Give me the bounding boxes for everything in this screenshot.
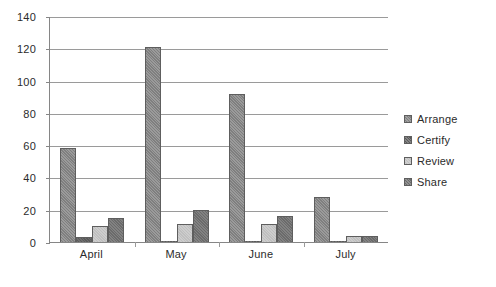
- bar-may-share[interactable]: [193, 210, 209, 242]
- legend-swatch-icon: [404, 178, 412, 186]
- y-tick-label: 20: [23, 205, 36, 217]
- bar-group-june: [219, 17, 304, 242]
- bar-group-bars: [304, 17, 389, 242]
- legend-label: Review: [417, 155, 454, 167]
- chart-legend: ArrangeCertifyReviewShare: [404, 108, 494, 192]
- x-axis-label-april: April: [80, 248, 103, 260]
- y-tick-label: 140: [17, 11, 36, 23]
- y-tick-label: 100: [17, 76, 36, 88]
- bar-group-april: [50, 17, 135, 242]
- bar-july-review[interactable]: [346, 236, 362, 242]
- bar-chart: 020406080100120140 AprilMayJuneJuly Arra…: [0, 0, 496, 287]
- bar-july-arrange[interactable]: [314, 197, 330, 242]
- x-tick-mark: [304, 242, 305, 247]
- x-axis-label-june: June: [249, 248, 274, 260]
- legend-label: Certify: [417, 134, 450, 146]
- y-tick-label: 0: [30, 237, 36, 249]
- bar-june-review[interactable]: [261, 224, 277, 242]
- y-tick-label: 60: [23, 140, 36, 152]
- y-tick-label: 40: [23, 172, 36, 184]
- bar-june-arrange[interactable]: [229, 94, 245, 243]
- bar-april-review[interactable]: [92, 226, 108, 242]
- x-axis-label-may: May: [165, 248, 186, 260]
- bar-june-share[interactable]: [277, 216, 293, 242]
- legend-item-arrange[interactable]: Arrange: [404, 108, 494, 129]
- bar-may-arrange[interactable]: [145, 47, 161, 242]
- bar-may-certify[interactable]: [161, 241, 177, 242]
- legend-item-review[interactable]: Review: [404, 150, 494, 171]
- bar-july-share[interactable]: [362, 236, 378, 242]
- bar-group-july: [304, 17, 389, 242]
- bar-april-arrange[interactable]: [60, 148, 76, 242]
- y-tick-label: 120: [17, 43, 36, 55]
- legend-item-certify[interactable]: Certify: [404, 129, 494, 150]
- legend-swatch-icon: [404, 136, 412, 144]
- bar-april-share[interactable]: [108, 218, 124, 242]
- legend-label: Share: [417, 176, 447, 188]
- x-tick-mark: [135, 242, 136, 247]
- legend-swatch-icon: [404, 157, 412, 165]
- x-tick-mark: [219, 242, 220, 247]
- plot-area: [49, 17, 388, 243]
- x-axis-category-labels: AprilMayJuneJuly: [49, 248, 388, 270]
- legend-label: Arrange: [417, 113, 458, 125]
- legend-item-share[interactable]: Share: [404, 171, 494, 192]
- y-tick-label: 80: [23, 108, 36, 120]
- bar-group-bars: [135, 17, 220, 242]
- bar-june-certify[interactable]: [245, 241, 261, 242]
- legend-swatch-icon: [404, 115, 412, 123]
- y-axis-tick-labels: 020406080100120140: [0, 0, 44, 287]
- bar-group-bars: [219, 17, 304, 242]
- bar-group-may: [135, 17, 220, 242]
- bar-may-review[interactable]: [177, 224, 193, 242]
- bar-april-certify[interactable]: [76, 237, 92, 242]
- x-axis-label-july: July: [335, 248, 355, 260]
- bar-july-certify[interactable]: [330, 241, 346, 242]
- y-tick-mark-0: [46, 243, 50, 244]
- bar-group-bars: [50, 17, 135, 242]
